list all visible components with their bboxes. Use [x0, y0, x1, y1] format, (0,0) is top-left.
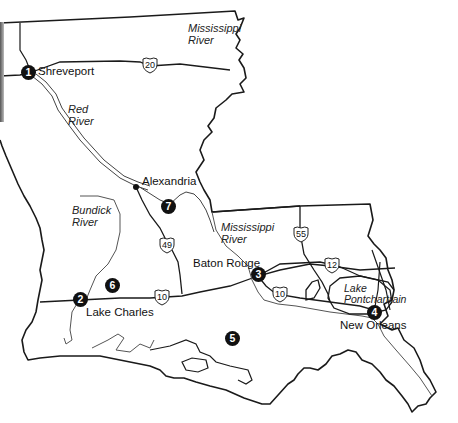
highway-number: 12 — [323, 260, 341, 270]
coastal-lake-central — [182, 358, 208, 372]
highway-shield-10-east: 10 — [271, 285, 289, 303]
city-label-baton-rouge: Baton Rouge — [193, 258, 260, 270]
parish-boundary — [212, 206, 300, 212]
highway-shield-12: 12 — [323, 256, 341, 274]
highway-shield-55: 55 — [292, 225, 310, 243]
highway-55-route — [300, 206, 330, 302]
red-river-bank — [36, 74, 150, 186]
marker-4[interactable]: 4 — [367, 305, 382, 320]
louisiana-map — [0, 0, 458, 423]
marker-7[interactable]: 7 — [161, 199, 176, 214]
highway-number: 55 — [292, 229, 310, 239]
highway-number: 49 — [158, 240, 176, 250]
highway-shield-10-west: 10 — [153, 288, 171, 306]
lake-maurepas — [306, 280, 320, 300]
highway-shield-49: 49 — [158, 236, 176, 254]
river-label-red: Red River — [68, 104, 94, 127]
marker-3[interactable]: 3 — [251, 267, 266, 282]
marker-2[interactable]: 2 — [73, 292, 88, 307]
coastal-lake-west — [92, 334, 154, 352]
city-dot-alexandria — [133, 184, 139, 190]
marker-1[interactable]: 1 — [21, 65, 36, 80]
coastline-marsh — [150, 340, 252, 384]
highway-number: 10 — [271, 289, 289, 299]
city-label-shreveport: Shreveport — [38, 66, 94, 78]
edge-shadow — [0, 22, 4, 122]
highway-number: 10 — [153, 292, 171, 302]
road-alexandria-east — [138, 186, 214, 232]
city-label-new-orleans: New Orleans — [340, 320, 406, 332]
red-river — [32, 76, 148, 190]
lake-label-pontchartrain: Lake Pontchartrain — [344, 283, 406, 305]
city-label-alexandria: Alexandria — [142, 176, 196, 188]
river-label-mississippi-north: Mississippi River — [188, 23, 241, 46]
calcasieu-river — [64, 302, 78, 344]
highway-shield-20: 20 — [141, 56, 159, 74]
city-label-lake-charles: Lake Charles — [86, 307, 154, 319]
highway-number: 20 — [141, 60, 159, 70]
marker-5[interactable]: 5 — [225, 331, 240, 346]
river-label-bundick: Bundick River — [72, 205, 111, 228]
marker-6[interactable]: 6 — [105, 278, 120, 293]
river-label-mississippi-south: Mississippi River — [221, 222, 274, 245]
road-north — [20, 23, 30, 70]
